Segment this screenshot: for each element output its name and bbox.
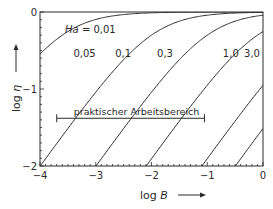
x-axis-arrowhead-icon [200, 193, 206, 198]
curve-label: 0,1 [115, 48, 131, 59]
y-tick-label: −1 [22, 84, 37, 95]
y-tick-label: −2 [22, 161, 37, 172]
x-axis-title: log B [140, 189, 168, 202]
axis-ticks: −4−3−2−100−1−2 [22, 7, 266, 181]
x-tick-label: −3 [88, 170, 103, 181]
y-tick-label: 0 [31, 7, 37, 18]
x-tick-label: −1 [200, 170, 215, 181]
curve-label: 3,0 [244, 48, 260, 59]
curve-label: Ha = 0,01 [65, 24, 116, 35]
curve-label: 0,3 [157, 48, 173, 59]
curve-label: 0,05 [73, 48, 95, 59]
curve-labels: Ha = 0,010,050,10,31,03,0 [65, 24, 260, 59]
y-axis-title: log η [10, 85, 23, 112]
curve-0-05 [40, 12, 263, 166]
y-axis-arrowhead-icon [14, 44, 19, 50]
x-tick-label: −2 [144, 170, 159, 181]
x-tick-label: 0 [260, 170, 266, 181]
range-label: praktischer Arbeitsbereich [74, 106, 199, 117]
curve-label: 1,0 [223, 48, 239, 59]
chart: −4−3−2−100−1−2 Ha = 0,010,050,10,31,03,0… [0, 0, 273, 209]
